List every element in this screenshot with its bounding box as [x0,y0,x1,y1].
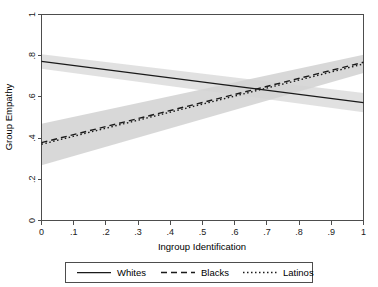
legend-label-whites: Whites [117,267,146,278]
legend-label-blacks: Blacks [201,267,229,278]
y-tick-label: 0 [27,218,37,223]
x-tick-label: .7 [263,227,271,237]
x-tick-label: .6 [231,227,239,237]
legend-label-latinos: Latinos [283,267,314,278]
x-axis-title: Ingroup Identification [158,241,246,252]
x-tick-label: .5 [199,227,207,237]
x-tick-label: 0 [39,227,44,237]
chart-figure: 0.2.4.6.81 0.1.2.3.4.5.6.7.8.91 Ingroup … [0,0,378,287]
x-tick-label: 1 [361,227,366,237]
y-tick-label: .6 [27,93,37,101]
x-tick-label: .3 [134,227,142,237]
x-tick-label: .9 [328,227,336,237]
y-tick-label: .8 [27,52,37,60]
y-axis-title: Group Empathy [3,83,14,150]
x-tick-label: .8 [295,227,303,237]
y-tick-label: .2 [27,176,37,184]
x-tick-label: .4 [167,227,175,237]
y-tick-label: 1 [27,12,37,17]
y-tick-label: .4 [27,134,37,142]
x-tick-label: .2 [102,227,110,237]
x-tick-label: .1 [70,227,78,237]
chart-svg: 0.2.4.6.81 0.1.2.3.4.5.6.7.8.91 Ingroup … [0,0,378,287]
